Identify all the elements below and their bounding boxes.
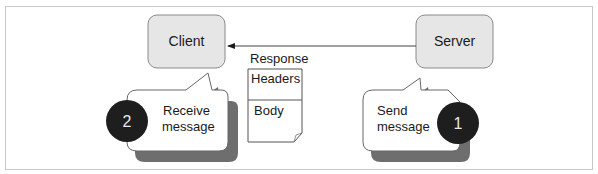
badge-1-number: 1	[454, 115, 463, 132]
body-section: Body	[254, 103, 284, 118]
headers-section: Headers	[251, 71, 301, 86]
client-node: Client	[148, 15, 225, 68]
server-label: Server	[434, 33, 476, 49]
callout-send-message: 1 Send message	[363, 78, 479, 162]
response-document: Headers Body	[248, 69, 302, 142]
client-label: Client	[169, 33, 205, 49]
callout-receive-message: 2 Receive message	[106, 73, 238, 162]
receive-line2: message	[162, 119, 215, 134]
server-node: Server	[416, 15, 493, 68]
send-line2: message	[377, 119, 430, 134]
http-response-diagram: Client Server Response Headers Body 2 Re…	[0, 0, 598, 174]
badge-2-number: 2	[123, 113, 132, 130]
receive-line1: Receive	[163, 103, 210, 118]
response-title: Response	[250, 51, 309, 66]
send-line1: Send	[377, 103, 407, 118]
